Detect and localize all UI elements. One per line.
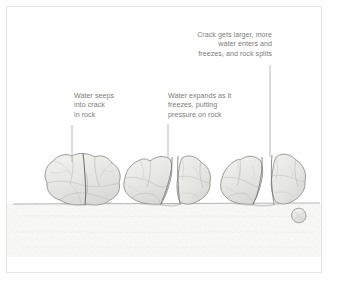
rock-stage-3 [221,154,306,206]
label-stage-2-water-expands: Water expands as it freezes, putting pre… [168,92,258,120]
rock-fragment [292,208,306,223]
label-stage-3-rock-splits: Crack gets larger, more water enters and… [160,31,272,59]
figure-container: Water seeps into crack in rock Water exp… [0,0,340,283]
rock-stage-1 [45,153,120,205]
rock-stage-2 [124,156,211,206]
ground-surface [7,203,321,272]
label-stage-1-water-seeps: Water seeps into crack in rock [74,92,144,120]
